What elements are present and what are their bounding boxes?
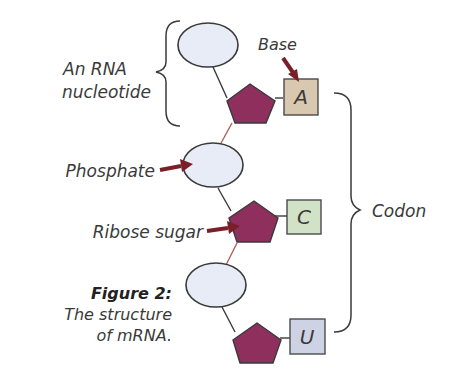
nucleotide-label-line1: An RNA <box>62 59 127 79</box>
nucleotide-brace <box>156 21 180 126</box>
bond-phosphate-sugar-1 <box>213 67 227 98</box>
mrna-structure-diagram: A C U An RNA nucleotide Base Phosphate R… <box>0 0 459 383</box>
ribose-sugar-label: Ribose sugar <box>93 222 204 242</box>
ribose-sugar-2 <box>229 201 278 242</box>
bond-phosphate-sugar-3 <box>222 307 235 332</box>
phosphate-3 <box>186 263 246 307</box>
codon-brace <box>334 93 360 332</box>
nucleotide-label-line2: nucleotide <box>62 82 151 102</box>
base-letter-2: C <box>297 205 311 229</box>
phosphate-1 <box>178 23 238 67</box>
base-label: Base <box>258 35 297 54</box>
codon-label: Codon <box>372 201 426 221</box>
phosphate-label: Phosphate <box>66 161 155 181</box>
bond-sugar-phosphate-1 <box>220 123 232 145</box>
figure-caption-line2: of mRNA. <box>96 326 172 345</box>
base-letter-1: A <box>292 85 308 109</box>
phosphate-2 <box>183 143 243 187</box>
base-letter-3: U <box>300 325 315 349</box>
ribose-sugar-3 <box>233 323 281 363</box>
bond-sugar-phosphate-2 <box>226 243 237 265</box>
bond-phosphate-sugar-2 <box>218 188 231 211</box>
figure-caption-line1: The structure <box>64 305 172 324</box>
ribose-sugar-1 <box>227 84 275 123</box>
figure-caption-title: Figure 2: <box>91 284 172 303</box>
